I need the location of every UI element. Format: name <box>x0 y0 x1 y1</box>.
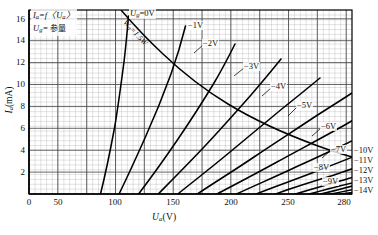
curve-label-m5v: −5V <box>296 101 313 110</box>
curve-label-m13v: −13V <box>353 176 374 185</box>
y-tick-12: 12 <box>3 58 25 67</box>
x-tick-150: 150 <box>158 198 188 207</box>
legend-line-2: Ug= 参量 <box>33 23 75 36</box>
x-tick-100: 100 <box>100 198 130 207</box>
curve-label-m2v: −2V <box>202 39 219 48</box>
curve-label-m14v: −14V <box>353 186 374 195</box>
legend-line-1: Ia=f〈Ua〉 <box>33 10 75 23</box>
x-axis-title: Ua(V) <box>152 212 176 222</box>
x-tick-250: 250 <box>273 198 303 207</box>
curve-label-m7v: −7V <box>330 145 347 154</box>
y-tick-16: 16 <box>3 15 25 24</box>
chart-legend: Ia=f〈Ua〉 Ug= 参量 <box>31 9 77 36</box>
curve-label-m1v: −1V <box>187 21 204 30</box>
y-tick-4: 4 <box>3 146 25 155</box>
curve-label-m6v: −6V <box>320 122 337 131</box>
curve-label-m3v: −3V <box>243 62 260 71</box>
curve-label-m8v: −8V <box>313 163 330 172</box>
x-tick-200: 200 <box>216 198 246 207</box>
x-tick-50: 50 <box>43 198 73 207</box>
y-tick-6: 6 <box>3 124 25 133</box>
curve-label-m11v: −11V <box>353 156 374 165</box>
x-tick-280: 280 <box>329 198 359 207</box>
anode-characteristic-chart: 16 14 12 10 8 6 4 2 0 50 100 150 200 250… <box>0 0 378 235</box>
curve-label-m9v: −9V <box>322 177 339 186</box>
curve-label-ug-0v: Ug=0V <box>129 9 156 19</box>
y-tick-2: 2 <box>3 168 25 177</box>
y-tick-14: 14 <box>3 36 25 45</box>
curve-label-m12v: −12V <box>353 166 374 175</box>
curve-label-m10v: −10V <box>353 146 374 155</box>
y-axis-title: Ia(mA) <box>4 75 14 125</box>
x-tick-0: 0 <box>14 198 44 207</box>
curve-label-m4v: −4V <box>270 82 287 91</box>
